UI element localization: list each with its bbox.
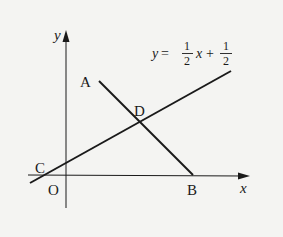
y-axis-label: y bbox=[52, 27, 61, 43]
x-axis-arrow-icon bbox=[238, 173, 250, 180]
equation-const-den: 2 bbox=[223, 54, 229, 68]
equation-plus: + bbox=[206, 46, 214, 61]
y-axis-arrow-icon bbox=[63, 30, 70, 42]
point-c-label: C bbox=[35, 160, 45, 176]
line-equation: y = 1 2 x + 1 2 bbox=[150, 39, 232, 68]
equation-lhs: y bbox=[150, 46, 159, 61]
line-cd bbox=[30, 71, 231, 183]
x-axis-label: x bbox=[239, 180, 247, 196]
equation-equals: = bbox=[161, 46, 169, 61]
point-d-label: D bbox=[134, 103, 145, 119]
equation-var: x bbox=[195, 46, 203, 61]
origin-label: O bbox=[48, 182, 59, 198]
diagram-canvas: y x O A B C D y = 1 2 x + 1 2 bbox=[0, 0, 283, 237]
equation-coef-num: 1 bbox=[184, 39, 190, 53]
point-b-label: B bbox=[187, 182, 197, 198]
equation-coef-den: 2 bbox=[184, 54, 190, 68]
segment-ab bbox=[99, 81, 193, 175]
point-a-label: A bbox=[80, 74, 91, 90]
equation-const-num: 1 bbox=[223, 39, 229, 53]
x-axis bbox=[28, 175, 244, 176]
